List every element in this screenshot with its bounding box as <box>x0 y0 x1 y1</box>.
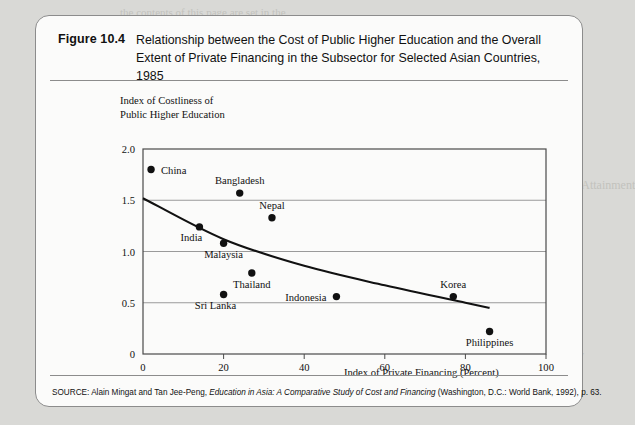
figure-title: Relationship between the Cost of Public … <box>136 32 560 86</box>
y-tick-label: 2.0 <box>122 144 135 155</box>
data-point <box>268 214 275 221</box>
source-note: SOURCE: Alain Mingat and Tan Jee-Peng, E… <box>52 387 568 398</box>
scatter-chart: 020406080100 00.51.01.52.0 ChinaBanglade… <box>36 80 584 378</box>
data-point <box>196 223 203 230</box>
data-point <box>450 293 457 300</box>
x-tick-label: 40 <box>299 362 310 373</box>
figure-number: Figure 10.4 <box>58 32 136 46</box>
data-point-label: Thailand <box>233 279 271 290</box>
data-point <box>147 166 154 173</box>
data-point-label: Bangladesh <box>215 175 265 186</box>
y-tick-label: 1.0 <box>122 247 135 258</box>
data-point-label: Indonesia <box>285 292 326 303</box>
data-point <box>220 291 227 298</box>
y-axis-ticks: 00.51.01.52.0 <box>122 144 135 360</box>
y-tick-label: 0.5 <box>122 298 135 309</box>
source-divider <box>50 375 568 376</box>
plot-area: Index of Costliness of Public Higher Edu… <box>36 80 582 376</box>
data-points: ChinaBangladeshNepalIndiaMalaysiaThailan… <box>147 165 513 349</box>
source-title: Education in Asia: A Comparative Study o… <box>209 388 435 397</box>
data-point <box>486 328 493 335</box>
data-point-label: Malaysia <box>204 249 243 260</box>
figure-panel: Figure 10.4 Relationship between the Cos… <box>35 15 583 407</box>
x-tick-label: 0 <box>140 362 145 373</box>
x-axis-label: Index of Private Financing (Percent) <box>344 367 499 378</box>
data-point <box>248 269 255 276</box>
data-point <box>333 293 340 300</box>
data-point <box>220 240 227 247</box>
source-suffix: (Washington, D.C.: World Bank, 1992), p.… <box>436 388 602 397</box>
source-prefix: SOURCE: Alain Mingat and Tan Jee-Peng, <box>52 388 209 397</box>
y-tick-label: 0 <box>130 349 135 360</box>
figure-title-line-1: Relationship between the Cost of Public … <box>136 32 560 50</box>
data-point-label: Philippines <box>466 337 514 348</box>
x-tick-label: 20 <box>218 362 229 373</box>
data-point-label: Korea <box>440 279 466 290</box>
data-point-label: Nepal <box>259 200 284 211</box>
y-tick-label: 1.5 <box>122 195 135 206</box>
data-point-label: Sri Lanka <box>195 300 237 311</box>
data-point-label: China <box>161 165 187 176</box>
x-tick-label: 100 <box>538 362 554 373</box>
data-point <box>236 189 243 196</box>
data-point-label: India <box>181 232 203 243</box>
